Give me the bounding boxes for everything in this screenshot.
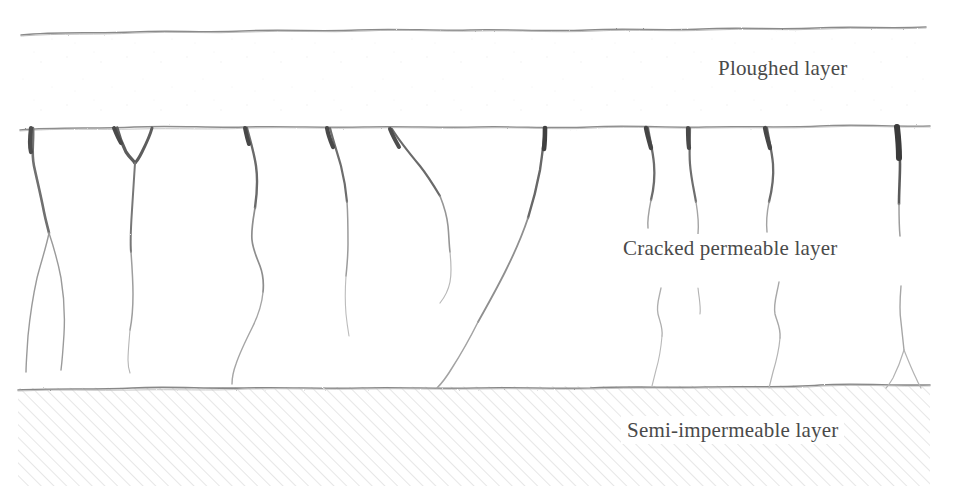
label-ploughed-layer: Ploughed layer: [712, 54, 853, 82]
crack-1-mouth: [30, 128, 31, 152]
crack-8-mouth: [688, 128, 689, 148]
crack-10-mouth: [897, 127, 899, 158]
soil-cross-section-figure: Ploughed layer Cracked permeable layer S…: [0, 0, 957, 486]
label-cracked-permeable-layer: Cracked permeable layer: [617, 234, 843, 262]
crack-6-mouth: [544, 128, 545, 149]
label-semi-impermeable-layer: Semi-impermeable layer: [621, 416, 844, 444]
